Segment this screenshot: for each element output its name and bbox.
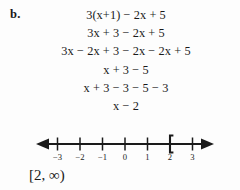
arrow-left-icon: [36, 139, 49, 150]
problem-label: b.: [10, 7, 20, 22]
interval-answer-text: [2, ∞): [29, 167, 65, 183]
equation-work-stack: 3(x+1) − 2x + 5 3x + 3 − 2x + 5 3x − 2x …: [30, 6, 222, 115]
arrow-right-icon: [201, 139, 214, 150]
equation-line: x + 3 − 5: [30, 61, 222, 79]
interval-answer: [2, ∞): [29, 166, 65, 184]
worksheet-page: b. 3(x+1) − 2x + 5 3x + 3 − 2x + 5 3x − …: [0, 0, 240, 190]
tick-label: 3: [179, 152, 207, 162]
equation-line: 3(x+1) − 2x + 5: [30, 6, 222, 24]
equation-line: 3x − 2x + 3 − 2x − 2x + 5: [30, 42, 222, 60]
equation-line: x + 3 − 3 − 5 − 3: [30, 79, 222, 97]
equation-line: 3x + 3 − 2x + 5: [30, 24, 222, 42]
equation-line: x − 2: [30, 97, 222, 115]
number-line-diagram: −3−2−10123: [0, 130, 240, 164]
